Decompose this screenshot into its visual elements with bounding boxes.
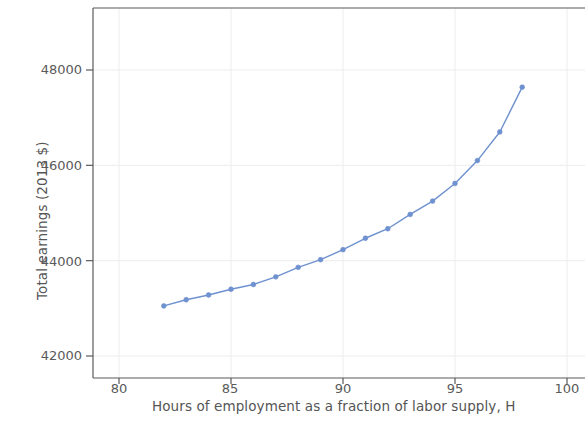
x-axis-title: Hours of employment as a fraction of lab…	[152, 398, 515, 414]
y-tick-label-46000: 46000	[6, 158, 82, 173]
x-tick-label-80: 80	[99, 381, 139, 396]
plot-area	[0, 0, 585, 423]
x-tick-label-85: 85	[210, 381, 250, 396]
axis-ticks	[86, 70, 567, 384]
x-tick-label-100: 100	[547, 381, 585, 396]
x-tick-label-95: 95	[435, 381, 475, 396]
x-tick-label-90: 90	[323, 381, 363, 396]
gridlines	[93, 8, 585, 378]
y-tick-label-48000: 48000	[6, 62, 82, 77]
axis-frame	[93, 8, 585, 378]
y-tick-label-44000: 44000	[6, 254, 82, 269]
chart-figure: Total earnings (2013 $) Hours of employm…	[0, 0, 585, 423]
y-tick-label-42000: 42000	[6, 348, 82, 363]
